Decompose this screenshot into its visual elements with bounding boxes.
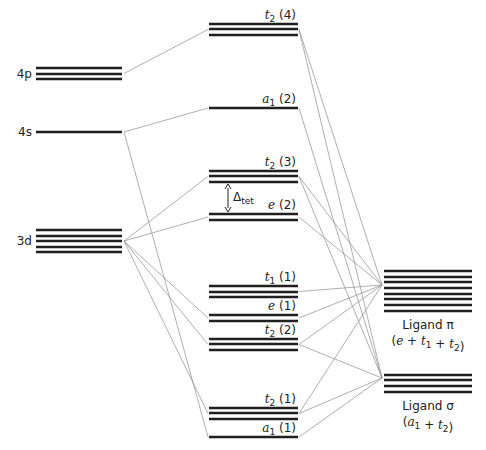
ligand-composition-pi: (e + t1 + t2) <box>392 334 465 354</box>
mo-diagram: 4p4s3dt2 (4)a1 (2)t2 (3)e (2)t1 (1)e (1)… <box>0 0 486 450</box>
connection-4s-a1_1 <box>124 132 208 437</box>
metal-label-4p: 4p <box>17 67 32 81</box>
mo-label-e-1: e (1) <box>268 299 296 313</box>
connection-a1_1-sigma <box>299 378 382 437</box>
connection-t2_1-sigma <box>299 378 382 414</box>
ligand-label-sigma: Ligand σ <box>402 399 454 413</box>
mo-label-t2-1: t2 (1) <box>265 392 296 408</box>
mo-label-t2-2: t2 (2) <box>265 323 296 339</box>
connection-t2_4-sigma <box>299 30 382 379</box>
level-e-2 <box>209 214 298 220</box>
level-e-1 <box>209 315 298 321</box>
mo-label-e-2: e (2) <box>268 198 296 212</box>
delta-tet-arrow: Δtet <box>225 184 254 212</box>
ligand-label-pi: Ligand π <box>402 318 453 332</box>
connection-3d-t2_1 <box>124 241 208 414</box>
connection-e_2-pi <box>299 217 382 285</box>
connection-a1_2-sigma <box>299 108 382 378</box>
connection-t2_3-sigma <box>299 177 382 379</box>
mo-label-t2-3: t2 (3) <box>265 155 296 171</box>
connection-lines <box>124 30 382 438</box>
mo-label-a1-2: a1 (2) <box>262 92 296 108</box>
connection-3d-t2_2 <box>124 241 208 345</box>
level-labels: 4p4s3dt2 (4)a1 (2)t2 (3)e (2)t1 (1)e (1)… <box>17 8 465 437</box>
connection-4p-t2_4 <box>124 30 208 74</box>
mo-label-t2-4: t2 (4) <box>265 8 296 24</box>
connection-3d-t2_3 <box>124 177 208 242</box>
connection-t2_3-pi <box>299 177 382 286</box>
level-4p <box>36 68 122 79</box>
connection-t2_2-pi <box>299 285 382 345</box>
connection-4s-a1_2 <box>124 108 208 132</box>
level-t1-1 <box>209 286 298 297</box>
level-t2-2 <box>209 339 298 350</box>
level-pi <box>384 271 472 311</box>
connection-3d-e_2 <box>124 217 208 241</box>
level-t2-1 <box>209 408 298 419</box>
level-t2-4 <box>209 24 298 35</box>
energy-levels <box>36 24 472 437</box>
level-sigma <box>384 375 472 392</box>
connection-t1_1-pi <box>299 285 382 292</box>
connection-t2_4-pi <box>299 30 382 286</box>
mo-label-a1-1: a1 (1) <box>262 421 296 437</box>
level-3d <box>36 230 122 252</box>
delta-tet-label: Δtet <box>233 190 254 206</box>
connection-3d-e_1 <box>124 241 208 318</box>
connection-e_1-pi <box>299 285 382 318</box>
metal-label-4s: 4s <box>18 125 32 139</box>
metal-label-3d: 3d <box>17 234 32 248</box>
mo-label-t1-1: t1 (1) <box>265 270 296 286</box>
ligand-composition-sigma: (a1 + t2) <box>403 415 454 435</box>
level-t2-3 <box>209 171 298 182</box>
